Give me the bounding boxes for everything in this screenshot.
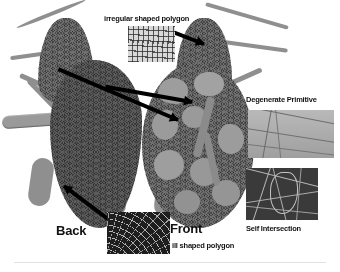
label-view-back: Back bbox=[56, 224, 86, 237]
label-irregular-shaped-polygon: irregular shaped polygon bbox=[104, 15, 189, 23]
vessel-branch bbox=[27, 157, 55, 208]
mesh-cross-section bbox=[142, 62, 254, 228]
inset-irregular-shaped-polygon bbox=[128, 26, 175, 62]
inset-degenerate-primitive bbox=[248, 110, 334, 158]
mesh-lobe bbox=[194, 72, 224, 96]
label-view-front: Front bbox=[170, 222, 202, 235]
mesh-lobe bbox=[218, 124, 244, 154]
label-ill-shaped-polygon: ill shaped polygon bbox=[172, 242, 234, 250]
figure-canvas: irregular shaped polygon Degenerate Prim… bbox=[0, 0, 340, 272]
label-degenerate-primitive: Degenerate Primitive bbox=[246, 96, 317, 104]
baseline-rule bbox=[14, 262, 326, 263]
mesh-lobe bbox=[174, 190, 200, 214]
label-self-intersection: Self Intersection bbox=[246, 225, 301, 233]
inset-ill-shaped-polygon bbox=[107, 212, 170, 254]
kidney-model-back bbox=[8, 8, 148, 238]
inset-self-intersection bbox=[246, 168, 318, 220]
